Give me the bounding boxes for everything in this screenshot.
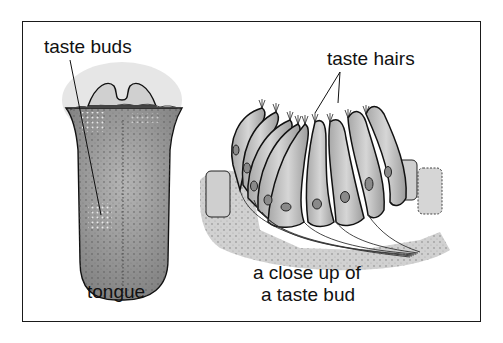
closeup-label-line1: a close up of <box>253 262 361 283</box>
taste-bud-illustration <box>200 72 450 270</box>
taste-buds-label: taste buds <box>44 36 132 57</box>
tongue-label: tongue <box>87 281 145 302</box>
tongue-illustration <box>62 60 182 300</box>
closeup-label-line2: a taste bud <box>261 284 355 305</box>
taste-hairs-label: taste hairs <box>327 48 415 69</box>
